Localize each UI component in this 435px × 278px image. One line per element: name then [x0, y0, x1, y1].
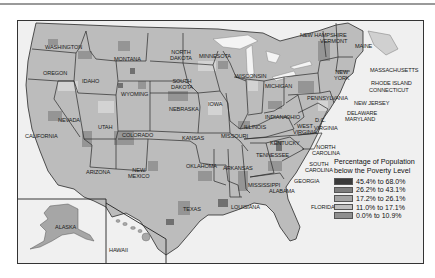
label-kansas: KANSAS	[182, 135, 204, 141]
label-connecticut: CONNECTICUT	[369, 87, 409, 93]
label-wyoming: WYOMING	[121, 91, 148, 97]
label-montana: MONTANA	[114, 56, 141, 62]
label-south-carolina: SOUTHCAROLINA	[305, 161, 333, 173]
label-pennsylvania: PENNSYLVANIA	[307, 95, 348, 101]
legend: Percentage of Population below the Pover…	[334, 157, 424, 220]
legend-title-line1: Percentage of Population	[334, 157, 424, 166]
label-vermont: VERMONT	[320, 38, 347, 44]
label-utah: UTAH	[98, 124, 112, 130]
map-frame: WASHINGTON OREGON IDAHO MONTANA WYOMING …	[17, 20, 424, 264]
label-idaho: IDAHO	[82, 78, 99, 84]
legend-item: 45.4% to 68.0%	[334, 177, 424, 186]
label-michigan: MICHIGAN	[265, 83, 292, 89]
label-alabama: ALABAMA	[269, 188, 295, 194]
label-north-carolina: NORTHCAROLINA	[312, 144, 340, 156]
label-georgia: GEORGIA	[294, 178, 319, 184]
legend-item: 0.0% to 10.9%	[334, 211, 424, 220]
label-colorado: COLORADO	[122, 132, 153, 138]
legend-swatch-0-11	[334, 212, 353, 219]
label-wisconsin: WISCONSIN	[235, 73, 266, 79]
legend-item: 11.0% to 17.1%	[334, 203, 424, 212]
label-arkansas: ARKANSAS	[223, 165, 253, 171]
label-missouri: MISSOURI	[221, 133, 248, 139]
label-nebraska: NEBRASKA	[169, 106, 199, 112]
label-virginia: VIRGINIA	[314, 125, 338, 131]
legend-swatch-26-43	[334, 187, 353, 194]
legend-label: 0.0% to 10.9%	[356, 212, 402, 219]
label-north-carolina-line2: CAROLINA	[312, 150, 340, 156]
label-new-mexico-line2: MEXICO	[128, 173, 149, 179]
label-north-dakota: NORTHDAKOTA	[170, 49, 192, 61]
label-oklahoma: OKLAHOMA	[186, 163, 217, 169]
label-hawaii: HAWAII	[109, 247, 128, 253]
label-iowa: IOWA	[208, 101, 222, 107]
label-arizona: ARIZONA	[86, 169, 110, 175]
label-rhode-island: RHODE ISLAND	[371, 80, 412, 86]
legend-item: 26.2% to 43.1%	[334, 186, 424, 195]
legend-swatch-17-26	[334, 195, 353, 202]
label-ohio: OHIO	[286, 114, 300, 120]
label-new-york-line2: YORK	[334, 75, 349, 81]
label-oregon: OREGON	[43, 70, 67, 76]
label-illinois: ILLINOIS	[244, 124, 266, 130]
legend-swatch-11-17	[334, 204, 353, 211]
label-kentucky: KENTUCKY	[270, 140, 300, 146]
legend-swatch-45-68	[334, 178, 353, 185]
label-texas: TEXAS	[183, 206, 201, 212]
legend-label: 17.2% to 26.1%	[356, 195, 405, 202]
label-florida: FLORIDA	[311, 204, 335, 210]
legend-label: 11.0% to 17.1%	[356, 204, 405, 211]
label-indiana: INDIANA	[265, 114, 287, 120]
label-new-york: NEWYORK	[334, 69, 349, 81]
legend-title-line2: below the Poverty Level	[334, 166, 424, 175]
label-maine: MAINE	[355, 43, 372, 49]
label-tennessee: TENNESSEE	[256, 152, 289, 158]
label-south-dakota-line2: DAKOTA	[171, 84, 193, 90]
label-alaska: ALASKA	[55, 224, 76, 230]
legend-item: 17.2% to 26.1%	[334, 194, 424, 203]
label-minnesota: MINNESOTA	[199, 53, 231, 59]
legend-label: 26.2% to 43.1%	[356, 186, 405, 193]
label-new-jersey: NEW JERSEY	[354, 100, 389, 106]
label-south-carolina-line2: CAROLINA	[305, 167, 333, 173]
label-massachusetts: MASSACHUSETTS	[370, 67, 418, 73]
top-rule	[0, 3, 435, 5]
label-louisiana: LOUISIANA	[231, 204, 260, 210]
label-south-dakota: SOUTHDAKOTA	[171, 78, 193, 90]
label-north-dakota-line2: DAKOTA	[170, 55, 192, 61]
legend-label: 45.4% to 68.0%	[356, 178, 405, 185]
label-washington: WASHINGTON	[45, 44, 82, 50]
label-nevada: NEVADA	[58, 117, 80, 123]
label-new-mexico: NEWMEXICO	[128, 167, 149, 179]
label-dc: D.C.	[315, 117, 326, 123]
label-california: CALIFORNIA	[25, 133, 58, 139]
label-maryland: MARYLAND	[345, 116, 375, 122]
